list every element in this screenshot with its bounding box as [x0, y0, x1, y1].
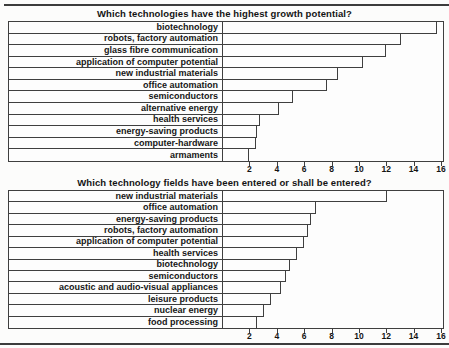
bar [223, 260, 290, 271]
chart-row: application of computer potential [9, 237, 443, 248]
bar [223, 103, 279, 115]
chart-row: energy-saving products [9, 126, 443, 138]
axis-tick-label: 4 [274, 165, 279, 174]
category-label: leisure products [9, 294, 223, 305]
axis-tick-label: 16 [436, 165, 445, 174]
chart-row: computer-hardware [9, 138, 443, 150]
category-label: acoustic and audio-visual appliances [9, 282, 223, 293]
chart-row: acoustic and audio-visual appliances [9, 282, 443, 293]
category-label: semiconductors [9, 271, 223, 282]
bar-zone [223, 225, 443, 236]
bar [223, 317, 257, 328]
category-label: application of computer potential [9, 57, 223, 69]
bar-zone [223, 34, 443, 46]
bar [223, 34, 401, 46]
chart-row: biotechnology [9, 260, 443, 271]
growth-potential-chart: Which technologies have the highest grow… [0, 8, 449, 175]
chart-row: office automation [9, 80, 443, 92]
fields-entered-chart: Which technology fields have been entere… [0, 177, 449, 342]
bar-zone [223, 317, 443, 328]
category-label: office automation [9, 202, 223, 213]
axis-tick-label: 4 [274, 332, 279, 341]
chart-row: new industrial materials [9, 191, 443, 202]
bar-zone [223, 282, 443, 293]
bottom-divider-rule [0, 343, 449, 345]
scanned-figure-page: Which technologies have the highest grow… [0, 0, 449, 348]
bar-zone [223, 248, 443, 259]
bar-zone [223, 68, 443, 80]
bar [223, 214, 311, 225]
bar [223, 271, 286, 282]
bar [223, 138, 256, 150]
chart-row: robots, factory automation [9, 34, 443, 46]
chart-row: robots, factory automation [9, 225, 443, 236]
chart-row: leisure products [9, 294, 443, 305]
chart-row: health services [9, 248, 443, 259]
axis-tick-label: 8 [329, 332, 334, 341]
axis-tick-label: 6 [302, 332, 307, 341]
chart-row: office automation [9, 202, 443, 213]
axis-tick-label: 8 [329, 165, 334, 174]
axis-tick-label: 12 [382, 332, 391, 341]
category-label: new industrial materials [9, 68, 223, 80]
bar-zone [223, 149, 443, 161]
axis-tick-label: 2 [247, 165, 252, 174]
bar-zone [223, 126, 443, 138]
bar-zone [223, 91, 443, 103]
category-label: armaments [9, 149, 223, 161]
chart-row: energy-saving products [9, 214, 443, 225]
x-axis: 246810121416 [222, 162, 449, 175]
category-label: computer-hardware [9, 138, 223, 150]
category-label: application of computer potential [9, 237, 223, 248]
chart-row: nuclear energy [9, 305, 443, 316]
category-label: alternative energy [9, 103, 223, 115]
category-label: new industrial materials [9, 191, 223, 202]
bar-zone [223, 57, 443, 69]
bar [223, 80, 327, 92]
bar-zone [223, 45, 443, 57]
category-label: biotechnology [9, 260, 223, 271]
category-label: robots, factory automation [9, 34, 223, 46]
axis-tick-label: 6 [302, 165, 307, 174]
bar [223, 149, 249, 161]
bar-zone [223, 115, 443, 127]
category-label: robots, factory automation [9, 225, 223, 236]
bar-zone [223, 237, 443, 248]
chart-plot-box: biotechnologyrobots, factory automationg… [8, 21, 444, 162]
chart-row: semiconductors [9, 271, 443, 282]
bar [223, 57, 363, 69]
bar [223, 294, 271, 305]
axis-tick-label: 16 [436, 332, 445, 341]
category-label: office automation [9, 80, 223, 92]
category-label: health services [9, 115, 223, 127]
chart-title: Which technologies have the highest grow… [0, 8, 449, 20]
bar-zone [223, 191, 443, 202]
bar [223, 22, 437, 34]
bar-zone [223, 214, 443, 225]
bar [223, 115, 260, 127]
category-label: biotechnology [9, 22, 223, 34]
bar [223, 305, 264, 316]
axis-tick-label: 12 [382, 165, 391, 174]
bar [223, 202, 316, 213]
category-label: energy-saving products [9, 214, 223, 225]
category-label: semiconductors [9, 91, 223, 103]
bar-zone [223, 260, 443, 271]
bar [223, 191, 387, 202]
bar [223, 91, 293, 103]
category-label: nuclear energy [9, 305, 223, 316]
chart-row: food processing [9, 317, 443, 328]
chart-title: Which technology fields have been entere… [0, 177, 449, 189]
bar [223, 68, 338, 80]
bar-zone [223, 22, 443, 34]
bar-zone [223, 138, 443, 150]
bar [223, 237, 304, 248]
category-label: food processing [9, 317, 223, 328]
axis-tick-label: 2 [247, 332, 252, 341]
chart-row: application of computer potential [9, 57, 443, 69]
category-label: glass fibre communication [9, 45, 223, 57]
bar-zone [223, 271, 443, 282]
chart-row: health services [9, 115, 443, 127]
bar [223, 45, 386, 57]
axis-tick-label: 10 [354, 332, 363, 341]
